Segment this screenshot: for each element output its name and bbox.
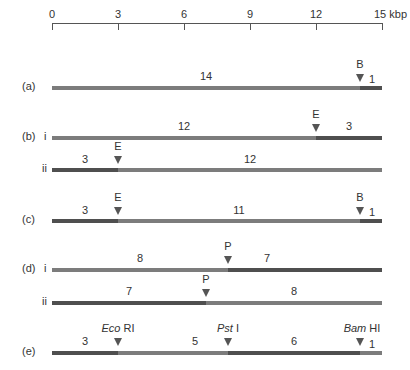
site-label-bamhi: B — [356, 191, 363, 203]
tick-label-9: 9 — [247, 8, 253, 20]
cut-site-arrow-icon — [224, 338, 232, 346]
tick-label-12: 12 — [310, 8, 322, 20]
enzyme-name-italic: Bam — [344, 322, 367, 334]
row-sublabel: ii — [42, 295, 47, 307]
site-label-ecori: E — [114, 191, 121, 203]
fragment-size-label: 3 — [82, 335, 88, 347]
site-label-ecori: Eco RI — [101, 322, 134, 334]
fragment-segment — [52, 168, 118, 172]
fragment-size-label: 7 — [126, 285, 132, 297]
fragment-size-label: 7 — [264, 252, 270, 264]
row-sublabel: ii — [42, 162, 47, 174]
cut-site-arrow-icon — [114, 156, 122, 164]
site-label-psti: P — [202, 273, 209, 285]
site-label-psti: Pst I — [217, 322, 239, 334]
fragment-size-label: 3 — [346, 120, 352, 132]
fragment-segment — [206, 301, 382, 305]
tick-label-0: 0 — [49, 8, 55, 20]
fragment-size-label: 14 — [200, 70, 212, 82]
fragment-size-label: 8 — [291, 285, 297, 297]
site-label-psti: P — [224, 240, 231, 252]
site-label-ecori: E — [114, 140, 121, 152]
row-label: (c) — [22, 213, 35, 225]
enzyme-name-suffix: I — [233, 322, 239, 334]
axis-tick — [184, 23, 185, 30]
axis-tick — [382, 23, 383, 30]
enzyme-name-suffix: RI — [120, 322, 134, 334]
site-label-bamhi: B — [356, 58, 363, 70]
fragment-size-label: 5 — [192, 335, 198, 347]
row-label: (b) — [22, 130, 35, 142]
site-label-bamhi: Bam HI — [344, 322, 381, 334]
fragment-segment — [118, 219, 360, 223]
fragment-size-label: 3 — [82, 204, 88, 216]
fragment-segment — [360, 351, 382, 355]
axis-line — [52, 23, 383, 24]
fragment-segment — [52, 301, 206, 305]
fragment-segment — [316, 136, 382, 140]
row-label: (a) — [22, 80, 35, 92]
row-label: (e) — [22, 345, 35, 357]
fragment-segment — [52, 351, 118, 355]
fragment-segment — [360, 219, 382, 223]
cut-site-arrow-icon — [114, 207, 122, 215]
fragment-segment — [360, 86, 382, 90]
fragment-segment — [228, 268, 382, 272]
fragment-size-label: 6 — [291, 335, 297, 347]
cut-site-arrow-icon — [356, 207, 364, 215]
fragment-segment — [52, 268, 228, 272]
site-label-ecori: E — [312, 108, 319, 120]
cut-site-arrow-icon — [356, 338, 364, 346]
tick-label-6: 6 — [181, 8, 187, 20]
enzyme-name-italic: Eco — [101, 322, 120, 334]
enzyme-name-suffix: HI — [366, 322, 380, 334]
fragment-segment — [118, 168, 382, 172]
fragment-segment — [52, 136, 316, 140]
row-sublabel: i — [44, 262, 46, 274]
fragment-segment — [52, 219, 118, 223]
row-sublabel: i — [44, 130, 46, 142]
fragment-size-label: 12 — [178, 120, 190, 132]
axis-tick — [316, 23, 317, 30]
fragment-size-label: 8 — [137, 252, 143, 264]
fragment-size-label: 11 — [233, 204, 244, 216]
cut-site-arrow-icon — [224, 256, 232, 264]
cut-site-arrow-icon — [202, 289, 210, 297]
fragment-size-label: 12 — [244, 153, 256, 165]
fragment-segment — [228, 351, 360, 355]
cut-site-arrow-icon — [114, 338, 122, 346]
tick-label-3: 3 — [115, 8, 121, 20]
fragment-segment — [118, 351, 228, 355]
tick-label-15: 15 kbp — [374, 8, 407, 20]
fragment-size-label: 3 — [82, 153, 88, 165]
cut-site-arrow-icon — [312, 124, 320, 132]
fragment-size-label: 1 — [369, 73, 375, 85]
row-label: (d) — [22, 262, 35, 274]
axis-tick — [118, 23, 119, 30]
fragment-size-label: 1 — [369, 338, 375, 350]
enzyme-name-italic: Pst — [217, 322, 233, 334]
axis-tick — [250, 23, 251, 30]
axis-tick — [52, 23, 53, 30]
fragment-segment — [52, 86, 360, 90]
fragment-size-label: 1 — [369, 206, 375, 218]
cut-site-arrow-icon — [356, 74, 364, 82]
